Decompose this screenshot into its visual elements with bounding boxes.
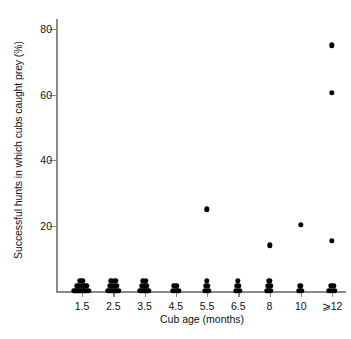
y-tick-label: 80: [40, 23, 52, 35]
data-point: [299, 288, 304, 293]
x-tick-label: 5.5: [200, 300, 215, 312]
data-point: [329, 238, 334, 243]
y-axis-spine: [56, 19, 58, 292]
x-axis-title: Cub age (months): [56, 313, 348, 325]
y-tick-label: 40: [40, 154, 52, 166]
data-point: [329, 43, 334, 48]
data-point: [146, 288, 151, 293]
data-point: [237, 288, 242, 293]
data-point: [268, 288, 273, 293]
data-point: [143, 278, 148, 283]
data-point: [205, 283, 210, 288]
plot-area: 20406080 1.52.53.54.55.56.5810⩾12: [56, 14, 348, 292]
data-point: [206, 288, 211, 293]
x-tick-label: 2.5: [106, 300, 121, 312]
y-axis-title: Successful hunts in which cubs caught pr…: [12, 5, 28, 295]
data-point: [267, 242, 272, 247]
data-point: [298, 222, 303, 227]
data-point: [116, 288, 121, 293]
x-tick-label: 4.5: [168, 300, 183, 312]
x-tick-label: 1.5: [75, 300, 90, 312]
x-tick-label: 10: [295, 300, 307, 312]
x-tick-label: 3.5: [137, 300, 152, 312]
data-point: [176, 288, 181, 293]
x-tick-label: 6.5: [231, 300, 246, 312]
data-point: [86, 288, 91, 293]
y-tick-label: 20: [40, 220, 52, 232]
scatter-plot-figure: Successful hunts in which cubs caught pr…: [0, 0, 351, 339]
y-tick-label: 60: [40, 89, 52, 101]
x-tick-label: ⩾12: [322, 300, 343, 312]
data-point: [332, 288, 337, 293]
data-point: [236, 283, 241, 288]
x-tick-label: 8: [267, 300, 273, 312]
data-point: [329, 90, 334, 95]
data-point: [268, 283, 273, 288]
data-point: [204, 206, 209, 211]
